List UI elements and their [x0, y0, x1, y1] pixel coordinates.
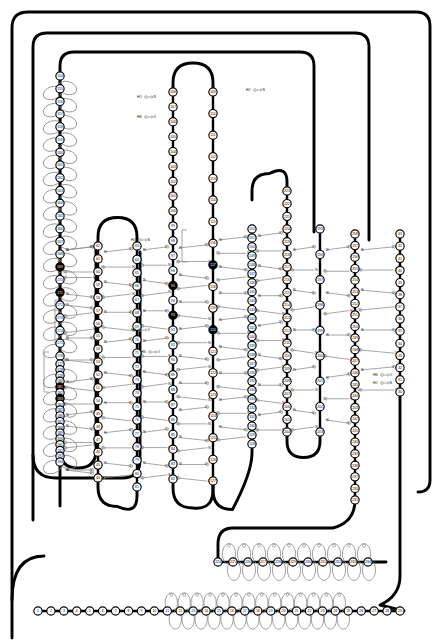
residue-47[interactable] [94, 435, 102, 443]
residue-205[interactable] [283, 415, 291, 423]
residue-125[interactable] [209, 434, 217, 442]
residue-91[interactable] [169, 341, 177, 349]
residue-60[interactable] [94, 268, 102, 276]
residue-65[interactable] [133, 269, 141, 277]
residue-41[interactable] [396, 254, 404, 262]
residue-146[interactable] [248, 279, 256, 287]
residue-79[interactable] [133, 456, 141, 464]
residue-228[interactable] [274, 558, 282, 566]
residue-136[interactable] [248, 368, 256, 376]
residue-103[interactable] [169, 162, 177, 170]
residue-45[interactable] [94, 461, 102, 469]
residue-98[interactable] [169, 237, 177, 245]
residue-120[interactable] [209, 326, 217, 334]
residue-208[interactable] [283, 377, 291, 385]
residue-32[interactable] [396, 364, 404, 372]
residue-206[interactable] [283, 402, 291, 410]
residue-84[interactable] [169, 445, 177, 453]
residue-24[interactable] [331, 607, 339, 615]
residue-80[interactable] [133, 469, 141, 477]
residue-30[interactable] [396, 388, 404, 396]
residue-249[interactable] [351, 334, 359, 342]
residue-200[interactable] [316, 352, 324, 360]
residue-64[interactable] [133, 255, 141, 263]
residue-122[interactable] [209, 369, 217, 377]
residue-71[interactable] [133, 349, 141, 357]
residue-72[interactable] [133, 362, 141, 370]
residue-89[interactable] [169, 371, 177, 379]
residue-213[interactable] [283, 314, 291, 322]
residue-1[interactable] [34, 607, 42, 615]
residue-96[interactable] [169, 266, 177, 274]
residue-56[interactable] [94, 319, 102, 327]
residue-99[interactable] [169, 222, 177, 230]
residue-160[interactable] [56, 148, 64, 156]
residue-114[interactable] [209, 196, 217, 204]
residue-162[interactable] [56, 174, 64, 182]
residue-253[interactable] [351, 288, 359, 296]
residue-174[interactable] [56, 326, 64, 334]
residue-63[interactable] [133, 242, 141, 250]
residue-127[interactable] [209, 477, 217, 485]
residue-13[interactable] [189, 607, 197, 615]
residue-169[interactable] [56, 263, 64, 271]
residue-22[interactable] [305, 607, 313, 615]
residue-115[interactable] [209, 218, 217, 226]
residue-134[interactable] [248, 386, 256, 394]
residue-126[interactable] [209, 455, 217, 463]
residue-40[interactable] [396, 266, 404, 274]
residue-97[interactable] [169, 252, 177, 260]
residue-242[interactable] [351, 415, 359, 423]
residue-106[interactable] [169, 118, 177, 126]
residue-165[interactable] [56, 212, 64, 220]
residue-101[interactable] [169, 192, 177, 200]
residue-210[interactable] [283, 352, 291, 360]
residue-46[interactable] [94, 448, 102, 456]
residue-58[interactable] [94, 293, 102, 301]
residue-155[interactable] [56, 85, 64, 93]
residue-226[interactable] [244, 558, 252, 566]
residue-109[interactable] [209, 88, 217, 96]
residue-220[interactable] [283, 225, 291, 233]
residue-158[interactable] [56, 123, 64, 131]
residue-104[interactable] [169, 147, 177, 155]
residue-31[interactable] [396, 376, 404, 384]
residue-111[interactable] [209, 131, 217, 139]
residue-5[interactable] [86, 607, 94, 615]
residue-44[interactable] [94, 474, 102, 482]
residue-175[interactable] [56, 339, 64, 347]
residue-250[interactable] [351, 322, 359, 330]
residue-7[interactable] [111, 607, 119, 615]
residue-141[interactable] [248, 323, 256, 331]
residue-215[interactable] [283, 288, 291, 296]
residue-117[interactable] [209, 261, 217, 269]
residue-50[interactable] [94, 397, 102, 405]
residue-131[interactable] [248, 413, 256, 421]
residue-147[interactable] [248, 270, 256, 278]
residue-168[interactable] [56, 250, 64, 258]
residue-176[interactable] [56, 352, 64, 360]
residue-87[interactable] [169, 400, 177, 408]
residue-194[interactable] [56, 458, 64, 466]
residue-3[interactable] [60, 607, 68, 615]
residue-254[interactable] [351, 276, 359, 284]
residue-107[interactable] [169, 103, 177, 111]
residue-164[interactable] [56, 199, 64, 207]
residue-38[interactable] [396, 291, 404, 299]
residue-76[interactable] [133, 416, 141, 424]
residue-52[interactable] [94, 371, 102, 379]
residue-34[interactable] [396, 339, 404, 347]
residue-231[interactable] [319, 558, 327, 566]
residue-258[interactable] [351, 230, 359, 238]
residue-90[interactable] [169, 356, 177, 364]
residue-6[interactable] [98, 607, 106, 615]
residue-214[interactable] [283, 301, 291, 309]
residue-128[interactable] [248, 440, 256, 448]
residue-112[interactable] [209, 153, 217, 161]
residue-163[interactable] [56, 186, 64, 194]
residue-171[interactable] [56, 288, 64, 296]
residue-142[interactable] [248, 314, 256, 322]
residue-33[interactable] [396, 351, 404, 359]
residue-148[interactable] [248, 261, 256, 269]
residue-11[interactable] [163, 607, 171, 615]
